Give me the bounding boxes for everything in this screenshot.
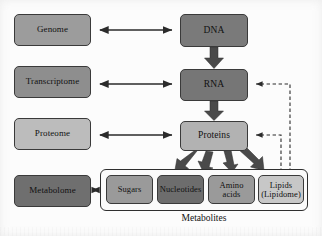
box-genome-label: Genome <box>37 25 68 34</box>
box-rna[interactable]: RNA <box>180 69 248 101</box>
box-proteins[interactable]: Proteins <box>180 121 248 151</box>
arrow-rna-to-proteins <box>205 101 224 121</box>
box-metabolome[interactable]: Metabolome <box>14 175 91 207</box>
box-dna[interactable]: DNA <box>180 14 248 47</box>
box-amino-acids[interactable]: Amino acids <box>208 175 255 204</box>
box-lipids[interactable]: Lipids (Lipidome) <box>258 175 304 204</box>
box-genome[interactable]: Genome <box>14 14 91 46</box>
box-proteome[interactable]: Proteome <box>14 118 91 150</box>
arrow-dna-to-rna <box>205 47 224 69</box>
box-sugars[interactable]: Sugars <box>106 175 153 204</box>
diagram-canvas: Genome Transcriptome Proteome Metabolome… <box>0 0 322 236</box>
box-sugars-label: Sugars <box>118 185 142 194</box>
metabolites-caption-text: Metabolites <box>182 213 227 223</box>
box-proteome-label: Proteome <box>35 129 70 138</box>
box-lipids-label-line2: (Lipidome) <box>261 190 301 199</box>
box-nucleotides-label: Nucleotides <box>160 185 202 194</box>
box-transcriptome[interactable]: Transcriptome <box>14 66 91 98</box>
metabolites-caption: Metabolites <box>100 213 308 223</box>
box-proteins-label: Proteins <box>198 131 230 141</box>
box-amino-acids-label-line2: acids <box>223 190 241 199</box>
box-metabolome-label: Metabolome <box>29 186 76 195</box>
box-nucleotides[interactable]: Nucleotides <box>157 175 204 204</box>
box-rna-label: RNA <box>204 80 224 90</box>
scan-artifact-strip <box>0 227 322 236</box>
box-dna-label: DNA <box>204 26 225 36</box>
box-transcriptome-label: Transcriptome <box>26 77 79 86</box>
